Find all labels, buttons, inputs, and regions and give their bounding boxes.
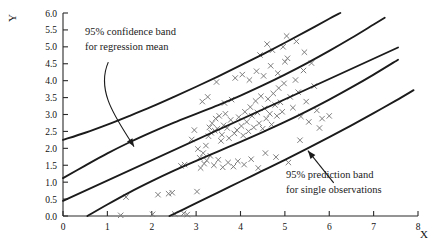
data-point (284, 33, 289, 38)
data-point (297, 138, 302, 143)
data-point (304, 99, 309, 104)
data-point (251, 125, 256, 130)
data-point (240, 72, 245, 77)
y-tick-label: 6.0 (45, 9, 57, 19)
data-point (118, 213, 123, 218)
data-point (274, 113, 279, 118)
data-point (268, 63, 273, 68)
data-point (226, 136, 231, 141)
data-point (203, 143, 208, 148)
y-tick-label: 2.5 (45, 127, 57, 137)
y-tick-label: 3.0 (45, 110, 57, 120)
data-point (231, 164, 236, 169)
data-point (233, 75, 238, 80)
data-point (306, 119, 311, 124)
x-tick-label: 0 (61, 222, 66, 232)
data-point (265, 96, 270, 101)
regression-bands-chart: 012345678 0.00.51.01.52.02.53.03.54.04.5… (0, 0, 440, 248)
data-point (213, 116, 218, 121)
data-point (294, 39, 299, 44)
data-point (195, 146, 200, 151)
y-tick-label: 4.5 (45, 59, 57, 69)
data-point (301, 68, 306, 73)
y-tick-label: 2.0 (45, 144, 57, 154)
y-axis-title: Y (6, 14, 18, 22)
data-point (275, 71, 280, 76)
data-point (249, 157, 254, 162)
data-point (192, 127, 197, 132)
data-point (170, 190, 175, 195)
data-point (235, 159, 240, 164)
data-point (327, 113, 332, 118)
data-point (254, 69, 259, 74)
data-point (264, 41, 269, 46)
x-tick-label: 2 (149, 222, 154, 232)
data-point (258, 94, 263, 99)
data-point (239, 123, 244, 128)
x-tick-label: 6 (327, 222, 332, 232)
x-axis-title: X (420, 228, 428, 240)
y-tick-label: 5.0 (45, 42, 57, 52)
data-point (220, 165, 225, 170)
x-tick-label: 4 (238, 222, 243, 232)
data-point (271, 91, 276, 96)
data-point (314, 108, 319, 113)
data-point (242, 109, 247, 114)
x-axis-ticks: 012345678 (61, 211, 421, 232)
data-point (200, 99, 205, 104)
y-tick-label: 1.0 (45, 178, 57, 188)
data-point (241, 133, 246, 138)
data-point (256, 165, 261, 170)
data-point (216, 157, 221, 162)
y-tick-label: 3.5 (45, 93, 57, 103)
data-point (219, 132, 224, 137)
x-tick-label: 7 (371, 222, 376, 232)
data-point (280, 109, 285, 114)
prediction-band-arrowhead (308, 151, 316, 159)
data-point (267, 111, 272, 116)
y-axis-ticks: 0.00.51.01.52.02.53.03.54.04.55.05.56.0 (45, 9, 68, 222)
data-point (225, 160, 230, 165)
data-point (248, 104, 253, 109)
prediction-band-annotation: 95% prediction band for single observati… (286, 151, 382, 195)
data-point (201, 150, 206, 155)
y-tick-label: 0.5 (45, 195, 57, 205)
data-point (253, 98, 258, 103)
data-point (217, 113, 222, 118)
prediction-band-annotation-line2: for single observations (286, 184, 382, 195)
data-point (261, 73, 266, 78)
data-point (211, 163, 216, 168)
data-point (317, 125, 322, 130)
data-point (155, 192, 160, 197)
data-point (223, 111, 228, 116)
data-point (205, 94, 210, 99)
data-point (244, 119, 249, 124)
data-point (246, 129, 251, 134)
data-point (273, 154, 278, 159)
data-point (293, 77, 298, 82)
data-point (319, 116, 324, 121)
data-point (263, 150, 268, 155)
x-tick-label: 3 (194, 222, 199, 232)
data-point (198, 165, 203, 170)
confidence-band-arrow (104, 62, 134, 147)
data-point (228, 117, 233, 122)
data-point (247, 77, 252, 82)
data-point (166, 191, 171, 196)
data-point (302, 50, 307, 55)
data-point (282, 59, 287, 64)
y-tick-label: 5.5 (45, 25, 57, 35)
data-point (241, 162, 246, 167)
confidence-band-annotation-line1: 95% confidence band (85, 26, 177, 37)
data-point (204, 158, 209, 163)
confidence-band-annotation-line2: for regression mean (85, 41, 169, 52)
data-point (194, 189, 199, 194)
data-point (286, 160, 291, 165)
data-point (281, 81, 286, 86)
y-tick-label: 0.0 (45, 212, 57, 222)
x-tick-label: 5 (283, 222, 288, 232)
y-tick-label: 1.5 (45, 161, 57, 171)
data-point (285, 56, 290, 61)
data-point (290, 105, 295, 110)
data-point (214, 79, 219, 84)
